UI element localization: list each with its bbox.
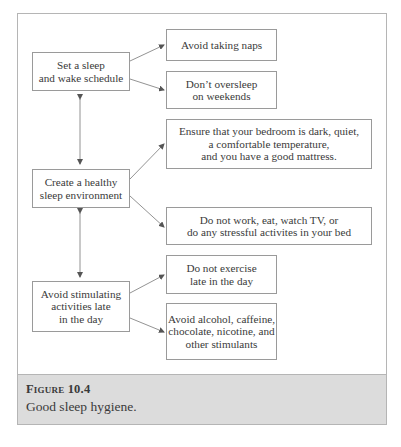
node-dont-oversleep: Don’t oversleep on weekends — [166, 71, 277, 109]
node-avoid-stimulating: Avoid stimulating activities late in the… — [32, 281, 130, 332]
node-label: Avoid stimulating activities late in the… — [41, 288, 121, 326]
figure-caption: Figure 10.4 Good sleep hygiene. — [17, 374, 387, 425]
node-label: Create a healthy sleep environment — [40, 176, 122, 201]
node-sleep-schedule: Set a sleep and wake schedule — [32, 52, 130, 91]
node-no-late-exercise: Do not exercise late in the day — [166, 255, 277, 294]
node-label: Do not work, eat, watch TV, or do any st… — [187, 214, 351, 239]
node-avoid-naps: Avoid taking naps — [166, 29, 277, 61]
figure-caption-text: Good sleep hygiene. — [26, 398, 378, 416]
figure-label: Figure 10.4 — [26, 380, 378, 398]
node-label: Do not exercise late in the day — [186, 262, 256, 287]
node-label: Ensure that your bedroom is dark, quiet,… — [179, 125, 359, 163]
node-label: Don’t oversleep on weekends — [186, 78, 258, 103]
node-avoid-substances: Avoid alcohol, caffeine, chocolate, nico… — [166, 303, 277, 360]
node-label: Avoid taking naps — [181, 39, 262, 52]
node-bedroom-conditions: Ensure that your bedroom is dark, quiet,… — [166, 119, 372, 169]
node-label: Avoid alcohol, caffeine, chocolate, nico… — [168, 313, 275, 351]
node-bed-use: Do not work, eat, watch TV, or do any st… — [166, 207, 372, 245]
node-label: Set a sleep and wake schedule — [39, 59, 124, 84]
node-sleep-environment: Create a healthy sleep environment — [32, 169, 130, 208]
